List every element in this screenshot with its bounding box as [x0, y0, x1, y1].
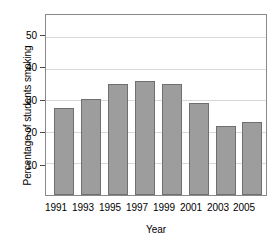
bar-1999: [162, 84, 182, 195]
x-tick-label-2005: 2005: [227, 203, 261, 213]
bar-2001: [189, 103, 209, 195]
bar-1993: [81, 99, 101, 195]
y-tick-label-30: 30: [0, 96, 37, 106]
bar-1995: [108, 84, 128, 195]
bar-2003: [216, 126, 236, 195]
gridline-50: [46, 37, 266, 38]
gridline-40: [46, 69, 266, 70]
y-tick-label-50: 50: [0, 31, 37, 41]
bar-1997: [135, 81, 155, 195]
y-tick-label-40: 40: [0, 63, 37, 73]
y-axis-title: Percentage of students smoking: [22, 26, 33, 206]
plot-area: [45, 14, 267, 196]
y-tick-label-20: 20: [0, 128, 37, 138]
gridline-30: [46, 100, 266, 101]
bar-chart-figure: Percentage of students smoking 50 40 30 …: [0, 0, 280, 242]
y-tick-label-10: 10: [0, 161, 37, 171]
x-axis-title: Year: [45, 224, 267, 235]
bar-1991: [54, 108, 74, 195]
bar-2005: [242, 122, 262, 195]
